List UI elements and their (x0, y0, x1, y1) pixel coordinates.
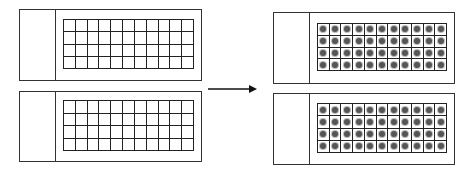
grid-cell (99, 126, 111, 139)
spot-dot-icon (402, 26, 408, 32)
grid-cell (435, 59, 447, 71)
spot-dot-icon (438, 131, 444, 137)
grid-cell (111, 20, 123, 32)
grid-cell (318, 24, 330, 36)
grid-cell (182, 101, 194, 114)
grid-cell (170, 20, 182, 32)
grid-cell (435, 48, 447, 60)
grid-cell (182, 20, 194, 32)
spot-dot-icon (438, 38, 444, 44)
spot-dot-icon (414, 119, 420, 125)
grid-cell (135, 32, 147, 44)
grid-cell (330, 59, 342, 71)
grid-cell (435, 141, 447, 153)
grid-cell (353, 36, 365, 48)
grid-cell (353, 59, 365, 71)
grid-cell (111, 57, 123, 69)
grid-cell (170, 45, 182, 57)
spot-dot-icon (438, 119, 444, 125)
grid-cell (377, 141, 389, 153)
spot-dot-icon (356, 143, 362, 149)
spot-dot-icon (438, 26, 444, 32)
grid-cell (318, 48, 330, 60)
grid-cell (88, 45, 100, 57)
grid-cell (365, 129, 377, 141)
spot-dot-icon (367, 26, 373, 32)
grid-cell (64, 45, 76, 57)
grid-cell (159, 32, 171, 44)
slide-label-area (274, 13, 310, 83)
spot-dot-icon (391, 131, 397, 137)
grid-cell (424, 59, 436, 71)
grid-cell (318, 59, 330, 71)
grid-cell (76, 32, 88, 44)
grid-cell (353, 116, 365, 128)
grid-cell (64, 114, 76, 127)
spot-dot-icon (379, 107, 385, 113)
grid-cell (88, 57, 100, 69)
spot-dot-icon (414, 26, 420, 32)
grid-cell (111, 114, 123, 127)
grid-cell (64, 32, 76, 44)
grid-cell (88, 32, 100, 44)
spot-dot-icon (344, 26, 350, 32)
grid-cell (170, 32, 182, 44)
spotted-slide-right-top (273, 12, 455, 84)
grid-cell (159, 126, 171, 139)
spot-dot-icon (320, 131, 326, 137)
grid-cell (182, 32, 194, 44)
grid-cell (147, 20, 159, 32)
slide-label-area (20, 10, 56, 80)
grid-cell (99, 32, 111, 44)
spot-dot-icon (402, 131, 408, 137)
spot-dot-icon (379, 50, 385, 56)
grid-cell (88, 101, 100, 114)
spot-dot-icon (344, 62, 350, 68)
grid-cell (76, 114, 88, 127)
grid-cell (400, 48, 412, 60)
spot-dot-icon (367, 107, 373, 113)
spot-dot-icon (320, 50, 326, 56)
grid-cell (99, 57, 111, 69)
grid-cell (424, 104, 436, 116)
spot-dot-icon (391, 62, 397, 68)
spot-dot-icon (391, 107, 397, 113)
grid-cell (330, 36, 342, 48)
grid-cell (123, 45, 135, 57)
grid-cell (412, 36, 424, 48)
grid-cell (424, 48, 436, 60)
spot-dot-icon (426, 119, 432, 125)
spot-dot-icon (320, 143, 326, 149)
grid-cell (377, 129, 389, 141)
spot-dot-icon (414, 38, 420, 44)
grid-cell (365, 59, 377, 71)
grid-cell (412, 141, 424, 153)
grid-cell (147, 114, 159, 127)
spot-dot-icon (332, 131, 338, 137)
grid-cell (135, 101, 147, 114)
grid-cell (330, 129, 342, 141)
spot-dot-icon (402, 50, 408, 56)
grid-cell (182, 114, 194, 127)
grid-cell (435, 116, 447, 128)
spot-dot-icon (367, 38, 373, 44)
spot-dot-icon (426, 26, 432, 32)
grid-cell (424, 116, 436, 128)
spot-dot-icon (438, 62, 444, 68)
spot-dot-icon (332, 26, 338, 32)
grid-cell (88, 114, 100, 127)
grid-cell (353, 129, 365, 141)
spot-dot-icon (320, 107, 326, 113)
spot-dot-icon (320, 26, 326, 32)
grid-cell (424, 129, 436, 141)
spot-dot-icon (438, 107, 444, 113)
spot-dot-icon (332, 143, 338, 149)
grid-cell (365, 48, 377, 60)
grid-cell (377, 48, 389, 60)
grid-cell (377, 36, 389, 48)
spot-dot-icon (438, 143, 444, 149)
spot-dot-icon (438, 50, 444, 56)
grid-cell (388, 24, 400, 36)
grid-cell (341, 129, 353, 141)
grid-cell (412, 116, 424, 128)
